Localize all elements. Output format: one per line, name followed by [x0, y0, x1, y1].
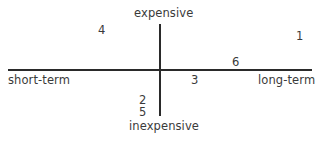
- point-5: 5: [139, 106, 146, 118]
- point-3: 3: [191, 74, 198, 86]
- axis-label-top: expensive: [134, 7, 193, 19]
- axis-label-bottom: inexpensive: [129, 120, 199, 132]
- vertical-axis: [159, 24, 161, 116]
- point-1: 1: [296, 30, 303, 42]
- axis-label-right: long-term: [258, 74, 315, 86]
- axis-label-left: short-term: [8, 74, 70, 86]
- point-6: 6: [232, 56, 239, 68]
- point-4: 4: [98, 24, 105, 36]
